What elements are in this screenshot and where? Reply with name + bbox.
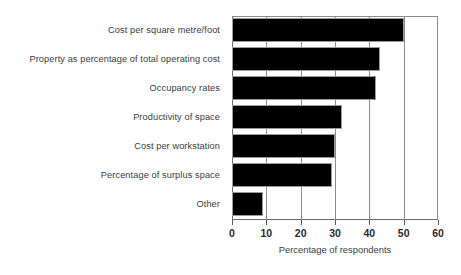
bar[interactable] xyxy=(232,105,342,129)
bar-row[interactable] xyxy=(232,105,438,129)
x-tick-label: 50 xyxy=(389,227,419,239)
x-tick-0 xyxy=(232,220,233,225)
x-tick-label: 30 xyxy=(320,227,350,239)
category-label-axis: Cost per square metre/footProperty as pe… xyxy=(0,16,226,220)
x-tick-10 xyxy=(266,220,267,225)
x-tick-30 xyxy=(335,220,336,225)
x-axis-title: Percentage of respondents xyxy=(232,244,438,255)
bar-chart-figure: Cost per square metre/footProperty as pe… xyxy=(0,0,461,275)
category-label: Productivity of space xyxy=(0,112,220,122)
category-label: Cost per workstation xyxy=(0,141,220,151)
x-tick-label: 20 xyxy=(286,227,316,239)
x-tick-60 xyxy=(438,220,439,225)
x-tick-40 xyxy=(369,220,370,225)
category-label: Occupancy rates xyxy=(0,83,220,93)
bar-row[interactable] xyxy=(232,47,438,71)
plot-area xyxy=(232,16,438,220)
x-tick-label: 0 xyxy=(217,227,247,239)
bar-row[interactable] xyxy=(232,163,438,187)
category-label: Percentage of surplus space xyxy=(0,170,220,180)
bar[interactable] xyxy=(232,163,332,187)
bar[interactable] xyxy=(232,192,263,216)
category-label: Property as percentage of total operatin… xyxy=(0,54,220,64)
bar[interactable] xyxy=(232,47,380,71)
bar-row[interactable] xyxy=(232,192,438,216)
x-tick-20 xyxy=(301,220,302,225)
x-tick-label: 40 xyxy=(354,227,384,239)
bar-row[interactable] xyxy=(232,76,438,100)
bar-row[interactable] xyxy=(232,18,438,42)
bar-row[interactable] xyxy=(232,134,438,158)
x-tick-label: 60 xyxy=(423,227,453,239)
bar[interactable] xyxy=(232,18,404,42)
x-tick-label: 10 xyxy=(251,227,281,239)
category-label: Cost per square metre/foot xyxy=(0,25,220,35)
bar[interactable] xyxy=(232,76,376,100)
bar[interactable] xyxy=(232,134,335,158)
category-label: Other xyxy=(0,199,220,209)
x-tick-50 xyxy=(404,220,405,225)
